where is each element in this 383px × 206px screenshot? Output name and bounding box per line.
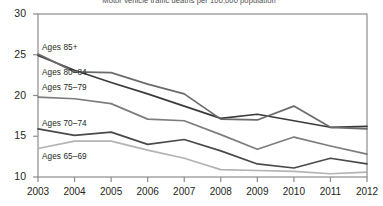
y-tick-label: 20	[2, 90, 26, 101]
x-tick-label: 2004	[58, 186, 92, 197]
x-tick-label: 2009	[240, 186, 274, 197]
series-line	[38, 129, 367, 168]
series-line	[38, 54, 367, 129]
data-series-lines	[38, 54, 367, 174]
x-tick-label: 2006	[131, 186, 165, 197]
x-tick-label: 2008	[204, 186, 238, 197]
x-tick-label: 2012	[350, 186, 383, 197]
x-tick-label: 2005	[94, 186, 128, 197]
series-label-ages-80-84: Ages 80–84	[42, 68, 87, 77]
plot-frame	[38, 14, 367, 177]
series-label-ages-65-69: Ages 65–69	[42, 152, 87, 161]
y-tick-label: 10	[2, 171, 26, 182]
series-label-ages-85: Ages 85+	[42, 43, 78, 52]
series-label-ages-70-74: Ages 70–74	[42, 119, 87, 128]
x-tick-label: 2011	[313, 186, 347, 197]
plot-frame-rect	[38, 14, 367, 177]
x-tick-label: 2003	[21, 186, 55, 197]
y-tick-label: 30	[2, 8, 26, 19]
x-tick-label: 2010	[277, 186, 311, 197]
y-tick-label: 15	[2, 130, 26, 141]
x-axis-ticks	[38, 177, 367, 182]
x-tick-label: 2007	[167, 186, 201, 197]
series-line	[38, 56, 367, 128]
y-tick-label: 25	[2, 49, 26, 60]
series-label-ages-75-79: Ages 75–79	[42, 83, 87, 92]
y-axis-ticks	[33, 14, 38, 177]
